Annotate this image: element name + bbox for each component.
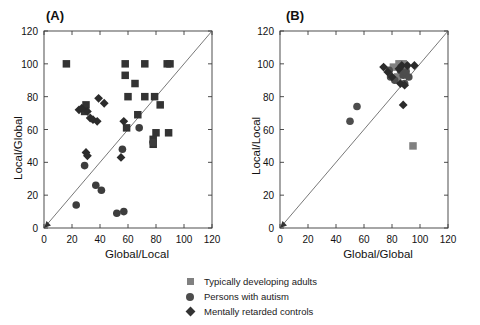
data-point-square [165,129,173,137]
x-tick-label: 40 [330,234,341,245]
y-tick-label: 60 [246,124,274,135]
data-point-square [63,60,71,67]
x-tick-label: 0 [41,234,47,245]
data-point-diamond [83,107,92,116]
data-point-diamond [93,117,102,126]
legend: Typically developing adults Persons with… [182,274,317,319]
panel-b-axes [280,31,448,228]
y-tick-label: 120 [10,26,38,37]
y-tick-label: 60 [10,124,38,135]
y-tick-label: 80 [246,91,274,102]
data-point-circle [81,162,89,170]
x-tick-label: 80 [386,234,397,245]
data-point-diamond [94,94,103,103]
data-point-square [141,93,149,101]
data-point-diamond [403,61,412,70]
data-point-square [394,73,402,81]
panel-a-label: (A) [46,8,64,23]
data-point-diamond [77,104,86,113]
x-tick-label: 20 [66,234,77,245]
data-point-circle [72,201,80,209]
data-point-square [82,101,90,109]
data-point-square [390,63,398,71]
data-point-square [409,142,417,150]
data-point-circle [98,186,106,194]
legend-item-label: Persons with autism [204,291,289,302]
circle-marker-icon [182,293,198,301]
data-point-square [121,60,129,67]
data-point-diamond [117,153,126,162]
x-tick-label: 120 [440,234,457,245]
data-point-circle [119,145,127,153]
data-point-square [402,65,410,73]
data-point-diamond [75,105,84,114]
data-point-diamond [100,99,109,108]
data-point-circle [402,68,410,76]
data-point-diamond [86,114,95,123]
panel-b-identity-line [280,31,448,228]
data-point-circle [149,139,157,147]
legend-item-persons-with-autism: Persons with autism [182,289,317,304]
data-point-circle [387,73,395,81]
y-tick-label: 0 [10,223,38,234]
data-point-square [121,72,129,80]
square-marker-icon [182,278,198,285]
y-tick-label: 120 [246,26,274,37]
x-tick-label: 60 [122,234,133,245]
x-tick-label: 0 [277,234,283,245]
data-point-diamond [399,100,408,109]
legend-item-label: Typically developing adults [204,276,317,287]
legend-item-typically-developing-adults: Typically developing adults [182,274,317,289]
legend-item-label: Mentally retarded controls [204,306,313,317]
y-tick-label: 40 [246,157,274,168]
y-tick-label: 0 [246,223,274,234]
x-tick-label: 40 [94,234,105,245]
data-point-circle [391,76,399,84]
data-point-diamond [397,61,406,70]
data-point-square [399,60,407,67]
x-tick-label: 100 [176,234,193,245]
x-tick-label: 100 [412,234,429,245]
data-point-diamond [379,63,388,72]
data-point-square [141,60,149,67]
panel-a-data-points [63,60,174,217]
x-tick-label: 120 [204,234,221,245]
data-point-square [123,124,131,132]
data-point-square [163,60,171,67]
data-point-square [398,70,406,78]
x-tick-label: 80 [150,234,161,245]
y-tick-label: 20 [246,190,274,201]
panel-a-identity-line [44,31,212,228]
panel-b-label: (B) [286,8,304,23]
data-point-circle [401,80,409,88]
data-point-circle [397,67,405,75]
x-tick-label: 60 [358,234,369,245]
data-point-square [124,93,132,101]
data-point-diamond [89,115,98,124]
y-tick-label: 40 [10,157,38,168]
data-point-square [149,136,157,144]
y-tick-label: 20 [10,190,38,201]
data-point-circle [353,103,361,111]
y-tick-label: 80 [10,91,38,102]
data-point-circle [92,182,100,190]
data-point-diamond [410,61,419,70]
data-point-diamond [395,64,404,73]
data-point-diamond [82,148,91,157]
data-point-circle [346,117,354,125]
data-point-square [156,101,164,109]
data-point-square [81,108,89,116]
figure-container: (A) (B) Global/Local Global/Global Local… [0,0,480,325]
panel-a-x-axis-title: Global/Local [72,248,202,260]
data-point-square [131,80,139,88]
data-point-square [149,141,157,149]
data-point-diamond [388,73,397,82]
panel-b-data-points [346,60,419,150]
data-point-square [166,60,174,67]
data-point-diamond [119,117,128,126]
data-point-square [134,111,142,119]
data-point-square [152,129,160,137]
data-point-square [151,93,159,101]
data-point-circle [120,208,128,216]
x-tick-label: 20 [302,234,313,245]
